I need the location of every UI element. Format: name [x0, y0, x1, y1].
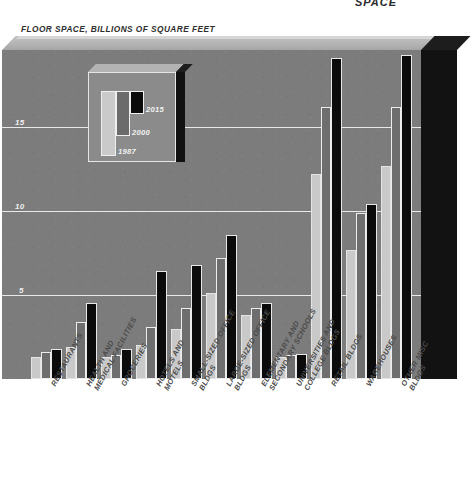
- bar-1987-restaurants: [31, 357, 41, 379]
- legend-label-2015: 2015: [146, 105, 164, 114]
- gridline-15: [2, 127, 421, 128]
- bar-2000-hotels-and-motels: [146, 327, 156, 379]
- chart-page: SPACE FLOOR SPACE, BILLIONS OF SQUARE FE…: [0, 0, 475, 500]
- legend-top-face: [88, 64, 184, 72]
- plot-top-highlight: [16, 36, 439, 39]
- bar-2000-restaurants: [41, 352, 51, 379]
- bar-2015-warehouses: [366, 204, 376, 379]
- bar-2000-health-and-medical-facilities: [76, 322, 86, 379]
- bar-2015-large-sized-office-bldgs: [226, 235, 236, 379]
- plot-side-face: [421, 50, 457, 379]
- legend-box: 2015 2000 1987: [88, 72, 176, 162]
- y-tick-label-15: 15: [15, 118, 25, 127]
- legend-swatch-1987: [101, 91, 116, 156]
- chart-title: FLOOR SPACE, BILLIONS OF SQUARE FEET: [21, 24, 215, 34]
- clipped-header-label: SPACE: [355, 0, 435, 8]
- x-axis-labels: RESTAURANTSHEALTH ANDMEDICAL FACILITIESG…: [0, 379, 475, 500]
- legend-label-1987: 1987: [118, 147, 136, 156]
- legend-side-face: [176, 72, 185, 162]
- bar-2000-warehouses: [356, 213, 366, 379]
- y-tick-label-10: 10: [15, 202, 25, 211]
- clipped-header-text: SPACE: [355, 0, 435, 9]
- legend-swatch-2015: [130, 91, 144, 114]
- legend-swatch-2000: [116, 91, 130, 136]
- legend-label-2000: 2000: [132, 128, 150, 137]
- y-tick-label-5: 5: [19, 286, 24, 295]
- plot-area: [2, 50, 421, 379]
- bar-2015-other-misc-bldgs: [401, 55, 411, 379]
